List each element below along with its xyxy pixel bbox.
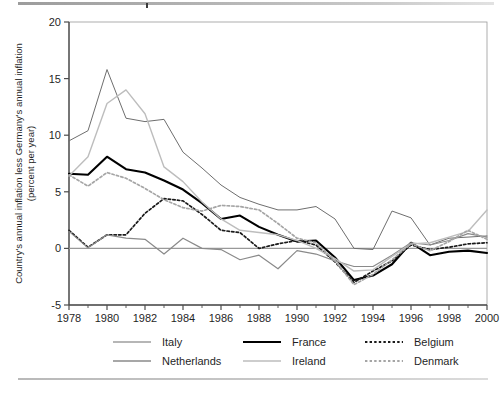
y-axis-title-group: Country's annual inflation less Germany'…	[13, 43, 36, 284]
figure-page: -505101520197819801982198419861988199019…	[0, 0, 501, 393]
x-tick-label-1996: 1996	[399, 312, 423, 324]
x-tick-label-1994: 1994	[361, 312, 385, 324]
legend-label-italy[interactable]: Italy	[162, 336, 183, 348]
x-tick-label-2000: 2000	[475, 312, 499, 324]
chart-svg: -505101520197819801982198419861988199019…	[0, 0, 501, 393]
legend-label-france[interactable]: France	[292, 336, 326, 348]
y-tick-label-15: 15	[49, 73, 61, 85]
x-tick-label-1998: 1998	[437, 312, 461, 324]
series-line-belgium[interactable]	[69, 199, 487, 283]
x-tick-label-1980: 1980	[95, 312, 119, 324]
y-tick-label--5: -5	[51, 299, 61, 311]
x-tick-label-1986: 1986	[209, 312, 233, 324]
x-tick-label-1982: 1982	[133, 312, 157, 324]
legend-label-denmark[interactable]: Denmark	[414, 355, 459, 367]
x-tick-label-1990: 1990	[285, 312, 309, 324]
x-tick-label-1984: 1984	[171, 312, 195, 324]
y-tick-label-10: 10	[49, 129, 61, 141]
plot-frame	[69, 22, 487, 305]
y-tick-label-5: 5	[55, 186, 61, 198]
x-tick-label-1978: 1978	[57, 312, 81, 324]
y-tick-label-20: 20	[49, 16, 61, 28]
series-line-france[interactable]	[69, 157, 487, 280]
x-tick-label-1988: 1988	[247, 312, 271, 324]
legend-label-netherlands[interactable]: Netherlands	[162, 355, 222, 367]
y-axis-title-line-2: (percent per year)	[25, 126, 36, 202]
legend-label-belgium[interactable]: Belgium	[414, 336, 454, 348]
y-axis-title-line-1: Country's annual inflation less Germany'…	[13, 43, 24, 284]
inflation-differential-line-chart: -505101520197819801982198419861988199019…	[0, 0, 501, 393]
x-tick-label-1992: 1992	[323, 312, 347, 324]
page-bottom-rule	[18, 378, 488, 380]
y-tick-label-0: 0	[55, 242, 61, 254]
legend-label-ireland[interactable]: Ireland	[292, 355, 326, 367]
